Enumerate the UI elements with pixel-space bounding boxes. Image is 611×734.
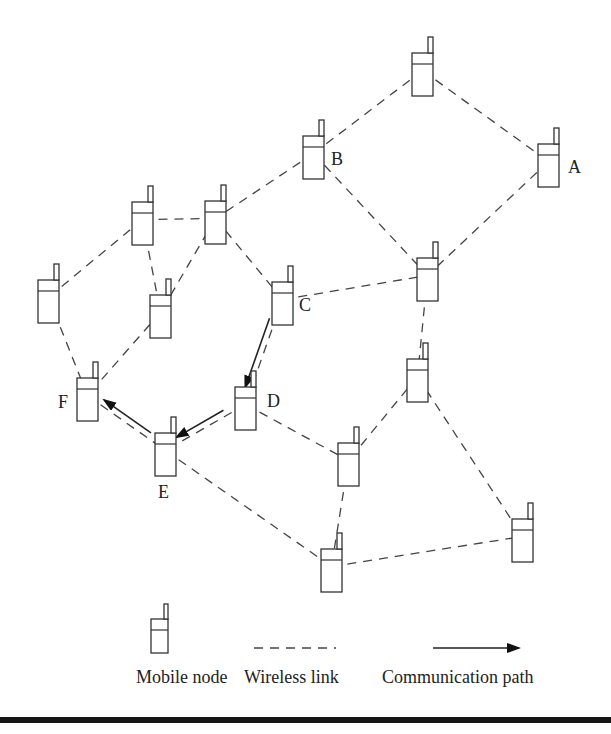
wireless-link-n10-n16	[418, 377, 523, 537]
node-label-e: E	[158, 482, 169, 502]
mobile-node-icon-a	[538, 128, 559, 187]
wireless-link-F-E	[88, 396, 166, 451]
wireless-link-E-n15	[166, 451, 332, 567]
mobile-node-icon	[412, 37, 433, 96]
mobile-node-icon	[150, 279, 171, 338]
legend-communication-path-label: Communication path	[382, 667, 533, 687]
mobile-node-icon-c	[272, 266, 293, 325]
wireless-link-B-n5	[216, 154, 314, 219]
legend-mobile-node-icon	[151, 604, 168, 653]
mobile-node-icon	[417, 242, 438, 301]
mobile-node-icon-f	[77, 362, 98, 421]
mobile-node-icon	[338, 427, 359, 486]
mobile-node-icon-d	[235, 371, 256, 430]
wireless-link-A-n9	[428, 162, 549, 276]
mobile-node-icon	[321, 533, 342, 592]
communication-path-arrow-D-E	[176, 410, 223, 437]
legend-mobile-node-label: Mobile node	[136, 667, 228, 687]
node-label-b: B	[331, 149, 343, 169]
wireless-link-D-E	[166, 405, 246, 451]
mobile-nodes: ABCFDE	[38, 37, 581, 592]
node-label-a: A	[568, 157, 581, 177]
wireless-link-n4-n6	[49, 220, 143, 298]
mobile-node-icon	[132, 186, 153, 245]
node-label-c: C	[299, 295, 311, 315]
network-diagram: ABCFDE Mobile node Wireless link Communi…	[0, 0, 611, 734]
bottom-rule-divider	[0, 717, 611, 723]
mobile-node-icon-b	[303, 120, 324, 179]
mobile-node-icon	[407, 343, 428, 402]
node-label-d: D	[267, 391, 280, 411]
mobile-node-icon	[205, 185, 226, 244]
wireless-link-B-n9	[314, 154, 428, 276]
wireless-link-n1-A	[423, 71, 549, 162]
mobile-node-icon	[512, 503, 533, 562]
communication-path-arrow-C-D	[245, 318, 269, 387]
node-label-f: F	[58, 392, 68, 412]
legend: Mobile node Wireless link Communication …	[136, 604, 533, 687]
communication-path-arrow-E-F	[104, 400, 151, 433]
wireless-link-D-n14	[246, 405, 349, 461]
mobile-node-icon-e	[155, 417, 176, 476]
mobile-node-icon	[38, 264, 59, 323]
wireless-links	[49, 71, 549, 567]
wireless-link-n1-B	[314, 71, 423, 154]
legend-wireless-link-label: Wireless link	[244, 667, 339, 687]
wireless-link-n15-n16	[332, 537, 523, 567]
